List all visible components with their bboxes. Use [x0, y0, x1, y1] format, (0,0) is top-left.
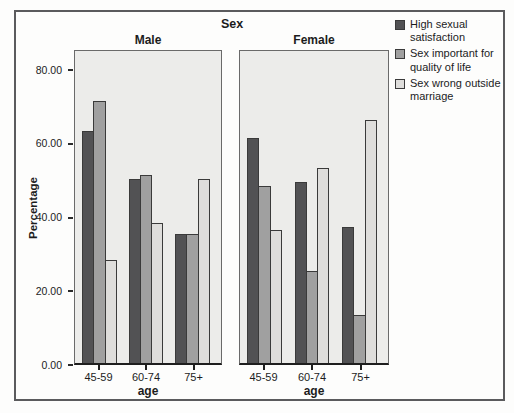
y-tick-label: 60.00 [16, 137, 62, 149]
y-tick-label: 20.00 [16, 285, 62, 297]
plot-area-male [74, 50, 222, 365]
legend-swatch-3 [395, 79, 405, 89]
bar-group-male-60-74 [129, 175, 164, 363]
panel-female: Female45-5960-7475+age [239, 33, 389, 398]
chart-title: Sex [74, 17, 390, 31]
bar-female-75+-series3 [365, 120, 377, 363]
x-tick-mark [311, 365, 313, 370]
x-tick-col [176, 365, 211, 370]
y-tick-mark [68, 364, 73, 366]
x-tick-mark [98, 365, 100, 370]
legend-swatch-2 [395, 49, 405, 59]
x-tick-label: 75+ [176, 371, 211, 383]
y-axis-title: Percentage [27, 177, 39, 239]
legend-item-2: Sex important for quality of life [395, 47, 501, 73]
bar-male-75+-series3 [198, 179, 210, 363]
x-tick-col [343, 365, 378, 370]
x-tick-mark [263, 365, 265, 370]
x-tick-label: 45-59 [81, 371, 116, 383]
x-tick-mark [145, 365, 147, 370]
x-tick-label: 60-74 [295, 371, 330, 383]
y-tick-label: 40.00 [16, 211, 62, 223]
x-axis-labels: 45-5960-7475+ [74, 371, 222, 383]
bar-male-45-59-series3 [105, 260, 117, 363]
bar-group-female-75+ [342, 120, 377, 363]
bar-group-male-45-59 [82, 101, 117, 363]
legend-item-3: Sex wrong outside marriage [395, 77, 501, 103]
panel-title-male: Male [74, 33, 222, 50]
bar-group-male-75+ [175, 179, 210, 363]
y-tick-mark [68, 69, 73, 71]
x-tick-mark [360, 365, 362, 370]
x-tick-col [129, 365, 164, 370]
legend-item-1: High sexual satisfaction [395, 18, 501, 44]
legend-swatch-1 [395, 20, 405, 30]
x-axis-ticks [74, 365, 222, 370]
x-tick-label: 75+ [343, 371, 378, 383]
bar-female-60-74-series3 [317, 168, 329, 363]
panel-title-female: Female [239, 33, 389, 50]
legend-label-3: Sex wrong outside marriage [410, 77, 501, 103]
x-axis-labels: 45-5960-7475+ [239, 371, 389, 383]
y-tick-mark [68, 143, 73, 145]
bar-group-female-60-74 [295, 168, 330, 363]
x-axis-title-female: age [239, 384, 389, 398]
chart-frame: Sex Percentage 80.0060.0040.0020.000.00 … [14, 10, 505, 401]
plot-area-female [239, 50, 389, 365]
x-tick-col [81, 365, 116, 370]
y-tick-label: 0.00 [16, 359, 62, 371]
x-tick-mark [193, 365, 195, 370]
x-tick-col [246, 365, 281, 370]
legend: High sexual satisfactionSex important fo… [395, 18, 501, 106]
y-tick-mark [68, 290, 73, 292]
bar-female-45-59-series3 [270, 230, 282, 363]
legend-label-2: Sex important for quality of life [410, 47, 501, 73]
bar-male-60-74-series3 [151, 223, 163, 363]
legend-label-1: High sexual satisfaction [410, 18, 501, 44]
y-tick-label: 80.00 [16, 64, 62, 76]
x-axis-title-male: age [74, 384, 222, 398]
panel-male: Male45-5960-7475+age [74, 33, 222, 398]
x-tick-col [295, 365, 330, 370]
x-tick-label: 60-74 [129, 371, 164, 383]
x-tick-label: 45-59 [246, 371, 281, 383]
bar-group-female-45-59 [247, 138, 282, 363]
y-tick-mark [68, 217, 73, 219]
x-axis-ticks [239, 365, 389, 370]
